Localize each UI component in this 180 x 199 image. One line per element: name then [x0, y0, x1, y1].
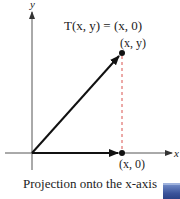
diagram-caption: Projection onto the x-axis: [0, 176, 180, 192]
point-xy-label: (x, y): [120, 36, 146, 50]
transformation-formula: T(x, y) = (x, 0): [64, 18, 142, 33]
point-x0-label: (x, 0): [119, 157, 145, 171]
y-axis-label: y: [29, 0, 35, 10]
next-slide-icon[interactable]: [163, 183, 180, 199]
point-x0: [119, 150, 125, 156]
x-axis-label: x: [173, 147, 179, 159]
projection-diagram: y x T(x, y) = (x, 0) (x, y) (x, 0): [0, 0, 180, 199]
vector-xy: [32, 56, 119, 153]
point-xy: [119, 50, 125, 56]
